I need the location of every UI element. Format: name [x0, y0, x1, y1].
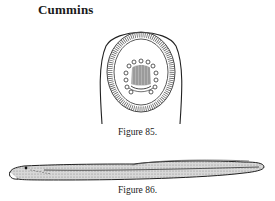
figure-85-caption: Figure 85.: [0, 127, 275, 137]
figure-85-illustration: [96, 24, 186, 124]
figure-86-caption: Figure 86.: [0, 185, 275, 195]
running-header: Cummins: [38, 2, 94, 18]
figure-86-illustration: [4, 158, 272, 184]
